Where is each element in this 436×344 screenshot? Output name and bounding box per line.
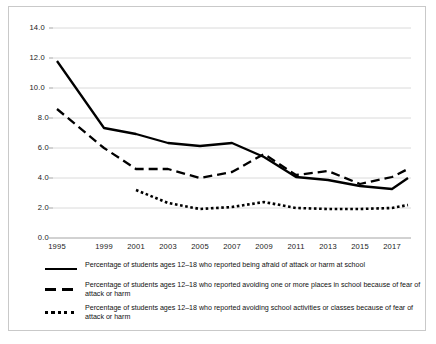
- x-axis-tick-label: 2015: [345, 242, 375, 251]
- legend-item-avoiding-activities: Percentage of students ages 12–18 who re…: [45, 304, 425, 323]
- chart-legend: Percentage of students ages 12–18 who re…: [9, 255, 427, 330]
- x-axis-tick-label: 2003: [153, 242, 183, 251]
- y-axis-tick-label: 4.0: [23, 173, 49, 182]
- figure-container: 14.0 12.0 10.0 8.0 6.0 4.0 2.0 0.0 1995 …: [8, 6, 426, 331]
- y-axis-tick-label: 14.0: [19, 23, 45, 32]
- y-axis-tick-label: 8.0: [23, 113, 49, 122]
- tick-marks-y: [49, 28, 53, 238]
- y-axis-tick-label: 12.0: [19, 53, 45, 62]
- x-axis-tick-label: 2013: [313, 242, 343, 251]
- x-axis-tick-label: 2005: [185, 242, 215, 251]
- dotted-line-key-icon: [45, 307, 79, 317]
- chart-plot-area: 14.0 12.0 10.0 8.0 6.0 4.0 2.0 0.0 1995 …: [9, 7, 427, 255]
- y-axis-tick-label: 2.0: [23, 203, 49, 212]
- x-axis-tick-label: 2001: [121, 242, 151, 251]
- y-axis-tick-label: 0.0: [23, 233, 49, 242]
- series-avoiding-places-line: [57, 109, 408, 184]
- dashed-line-key-icon: [45, 284, 79, 294]
- legend-item-label: Percentage of students ages 12–18 who re…: [85, 261, 365, 270]
- series-avoiding-activities-line: [136, 190, 408, 209]
- legend-item-afraid-of-attack: Percentage of students ages 12–18 who re…: [45, 261, 365, 274]
- legend-item-label: Percentage of students ages 12–18 who re…: [85, 281, 425, 300]
- x-axis-tick-label: 2017: [377, 242, 407, 251]
- line-chart-svg: [9, 7, 427, 255]
- y-axis-tick-label: 10.0: [19, 83, 45, 92]
- x-axis-tick-label: 1999: [89, 242, 119, 251]
- figure-caption: [28, 335, 428, 344]
- legend-item-avoiding-places: Percentage of students ages 12–18 who re…: [45, 281, 425, 300]
- gridlines: [53, 28, 411, 208]
- x-axis-tick-label: 2009: [249, 242, 279, 251]
- x-axis-tick-label: 2007: [217, 242, 247, 251]
- y-axis-tick-label: 6.0: [23, 143, 49, 152]
- legend-item-label: Percentage of students ages 12–18 who re…: [85, 304, 425, 323]
- x-axis-tick-label: 2011: [281, 242, 311, 251]
- series-afraid-of-attack-line: [57, 61, 408, 189]
- solid-line-key-icon: [45, 264, 79, 274]
- x-axis-tick-label: 1995: [42, 242, 72, 251]
